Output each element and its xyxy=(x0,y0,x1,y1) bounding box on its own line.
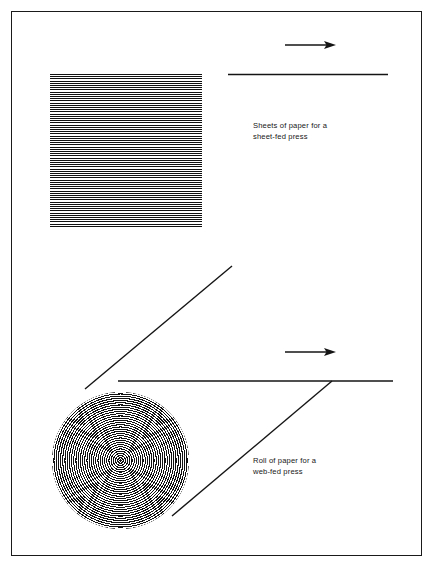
figure-illustration: Sheets of paper for a sheet-fed press Ro… xyxy=(0,0,439,571)
caption-sheet-fed: Sheets of paper for a sheet-fed press xyxy=(253,120,383,142)
sheet-stack-graphic xyxy=(50,74,202,228)
caption-web-fed: Roll of paper for a web-fed press xyxy=(253,455,383,477)
paper-roll-graphic xyxy=(52,392,189,529)
